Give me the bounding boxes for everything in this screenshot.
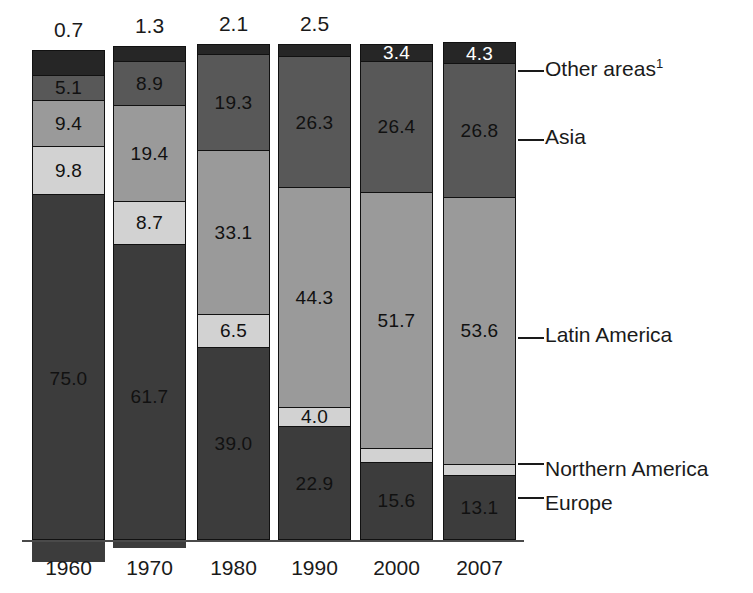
segment-value: 39.0: [215, 434, 253, 453]
legend-footnote-marker: 1: [656, 56, 663, 71]
segment-2000-europe[interactable]: 15.6: [360, 462, 433, 539]
segment-value: 26.8: [461, 121, 499, 140]
segment-value: 9.4: [55, 114, 82, 133]
bar-2000[interactable]: 3.426.451.715.6: [360, 44, 433, 540]
legend-label-text: Other areas: [545, 57, 656, 80]
legend-label-text: Asia: [545, 125, 586, 148]
segment-1980-northern-america[interactable]: 6.5: [197, 314, 270, 346]
segment-value: 22.9: [296, 474, 334, 493]
segment-value: 3.4: [383, 43, 410, 62]
segment-value: 61.7: [131, 387, 169, 406]
segment-value: 53.6: [461, 321, 499, 340]
legend-label-text: Northern America: [545, 457, 708, 480]
segment-2000-northern-america[interactable]: [360, 448, 433, 461]
segment-1980-other-areas[interactable]: [197, 44, 270, 54]
segment-1990-other-areas[interactable]: [278, 44, 351, 56]
segment-1970-northern-america[interactable]: 8.7: [113, 201, 186, 244]
segment-2007-other-areas[interactable]: 4.3: [443, 42, 516, 63]
segment-1970-latin-america[interactable]: 19.4: [113, 105, 186, 201]
legend-leader-line: [518, 139, 544, 141]
segment-value: 26.3: [296, 113, 334, 132]
bar-1990[interactable]: 26.344.34.022.9: [278, 44, 351, 540]
legend-leader-line: [518, 70, 544, 72]
segment-value: 51.7: [378, 311, 416, 330]
segment-1960-other-areas[interactable]: [32, 50, 105, 75]
segment-2000-latin-america[interactable]: 51.7: [360, 192, 433, 448]
x-axis-label-2007: 2007: [437, 557, 522, 578]
segment-1970-asia[interactable]: 8.9: [113, 61, 186, 105]
segment-value: 6.5: [220, 321, 247, 340]
segment-1990-asia[interactable]: 26.3: [278, 56, 351, 186]
legend-label-northern-america[interactable]: Northern America: [545, 458, 708, 479]
segment-1960-europe[interactable]: 75.0: [32, 194, 105, 562]
segment-value: 44.3: [296, 288, 334, 307]
legend-label-text: Europe: [545, 491, 613, 514]
segment-1980-latin-america[interactable]: 33.1: [197, 150, 270, 314]
legend-leader-line: [518, 463, 544, 465]
segment-1970-europe[interactable]: 61.7: [113, 244, 186, 549]
segment-value: 5.1: [55, 78, 82, 97]
x-axis-label-1990: 1990: [272, 557, 357, 578]
legend-label-text: Latin America: [545, 323, 672, 346]
segment-1990-latin-america[interactable]: 44.3: [278, 187, 351, 407]
bar-total-1990: 2.5: [278, 13, 351, 34]
x-axis-label-1980: 1980: [191, 557, 276, 578]
segment-value: 4.3: [466, 44, 493, 63]
legend-leader-line: [518, 337, 544, 339]
segment-value: 26.4: [378, 117, 416, 136]
segment-2007-northern-america[interactable]: [443, 464, 516, 475]
segment-1990-northern-america[interactable]: 4.0: [278, 407, 351, 427]
segment-1980-europe[interactable]: 39.0: [197, 347, 270, 540]
segment-1990-europe[interactable]: 22.9: [278, 426, 351, 540]
segment-1960-latin-america[interactable]: 9.4: [32, 100, 105, 146]
legend-label-latin-america[interactable]: Latin America: [545, 324, 672, 345]
segment-value: 19.4: [131, 144, 169, 163]
legend-label-other-areas[interactable]: Other areas1: [545, 57, 663, 79]
x-axis-label-1970: 1970: [107, 557, 192, 578]
bar-1980[interactable]: 19.333.16.539.0: [197, 44, 270, 540]
legend-leader-line: [518, 497, 544, 499]
stacked-bar-chart: 5.19.49.875.00.719608.919.48.761.71.3197…: [0, 0, 753, 593]
segment-value: 19.3: [215, 93, 253, 112]
segment-2000-asia[interactable]: 26.4: [360, 61, 433, 192]
x-axis-line: [22, 540, 524, 542]
segment-2007-latin-america[interactable]: 53.6: [443, 197, 516, 464]
bar-1960[interactable]: 5.19.49.875.0: [32, 50, 105, 540]
segment-value: 8.9: [136, 74, 163, 93]
segment-1970-other-areas[interactable]: [113, 46, 186, 61]
segment-value: 13.1: [461, 498, 499, 517]
segment-1980-asia[interactable]: 19.3: [197, 54, 270, 150]
segment-value: 33.1: [215, 223, 253, 242]
bar-total-1960: 0.7: [32, 19, 105, 40]
bar-total-1970: 1.3: [113, 15, 186, 36]
segment-value: 4.0: [301, 407, 328, 426]
bar-2007[interactable]: 4.326.853.613.1: [443, 42, 516, 540]
segment-2007-europe[interactable]: 13.1: [443, 475, 516, 540]
segment-1960-northern-america[interactable]: 9.8: [32, 146, 105, 194]
segment-2000-other-areas[interactable]: 3.4: [360, 44, 433, 61]
segment-1960-asia[interactable]: 5.1: [32, 75, 105, 100]
legend-label-europe[interactable]: Europe: [545, 492, 613, 513]
plot-area: 5.19.49.875.00.719608.919.48.761.71.3197…: [0, 0, 753, 593]
x-axis-label-2000: 2000: [354, 557, 439, 578]
segment-value: 9.8: [55, 161, 82, 180]
segment-2007-asia[interactable]: 26.8: [443, 63, 516, 196]
bar-1970[interactable]: 8.919.48.761.7: [113, 46, 186, 540]
segment-value: 75.0: [50, 369, 88, 388]
segment-value: 8.7: [136, 213, 163, 232]
segment-value: 15.6: [378, 491, 416, 510]
legend-label-asia[interactable]: Asia: [545, 126, 586, 147]
bar-total-1980: 2.1: [197, 13, 270, 34]
